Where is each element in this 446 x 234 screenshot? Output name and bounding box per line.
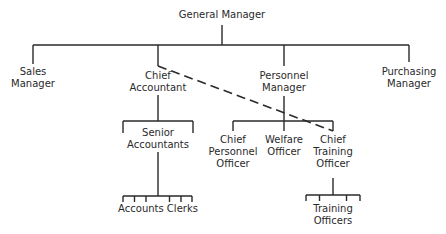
node-welfare-officer: WelfareOfficer [265, 134, 303, 158]
node-purchasing-manager: PurchasingManager [382, 66, 437, 90]
node-training-officers: TrainingOfficers [313, 203, 352, 227]
node-chief-training-officer: ChiefTrainingOfficer [313, 134, 352, 170]
node-personnel-manager: PersonnelManager [260, 70, 309, 94]
node-accounts-clerks: Accounts Clerks [118, 203, 198, 215]
node-chief-accountant: ChiefAccountant [130, 70, 187, 94]
node-general-manager: General Manager [179, 9, 265, 21]
connector-lines [0, 0, 446, 234]
node-senior-accountants: SeniorAccountants [127, 127, 189, 151]
node-sales-manager: SalesManager [11, 66, 55, 90]
node-chief-personnel-officer: ChiefPersonnelOfficer [209, 134, 258, 170]
